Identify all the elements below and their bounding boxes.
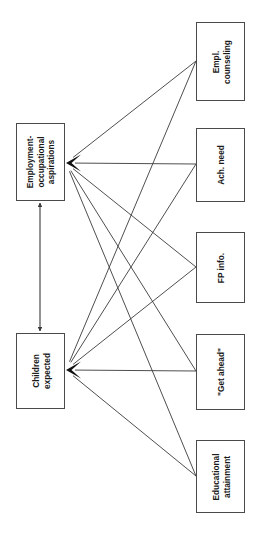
node-label-children-expected: Children expected <box>30 353 51 389</box>
edge-ach-need-to-aspirations <box>75 163 196 164</box>
edge-fp-info-to-aspirations <box>73 169 196 267</box>
node-label-ach-need: Ach. need <box>215 145 226 185</box>
edge-get-ahead-to-aspirations <box>71 171 196 371</box>
path-model-diagram: Empl. counselingAch. needFP info."Get ah… <box>0 0 259 542</box>
edge-lines <box>69 61 196 476</box>
edge-empl-counseling-to-aspirations <box>73 61 196 157</box>
node-label-employment-occupational-aspirations: Employment- occupational aspirations <box>25 136 57 189</box>
node-label-get-ahead: "Get ahead" <box>215 348 226 396</box>
node-label-educational-attainment: Educational attainment <box>210 453 231 500</box>
node-empl-counseling[interactable]: Empl. counseling <box>196 22 245 101</box>
node-ach-need[interactable]: Ach. need <box>196 128 245 202</box>
edge-get-ahead-to-children <box>75 370 196 371</box>
edge-fp-info-to-children <box>73 267 196 364</box>
edge-educational-attainment-to-aspirations <box>69 171 196 476</box>
edge-educational-attainment-to-children <box>73 376 196 476</box>
node-label-fp-info: FP info. <box>215 252 226 282</box>
node-get-ahead[interactable]: "Get ahead" <box>196 334 245 410</box>
node-fp-info[interactable]: FP info. <box>196 232 245 303</box>
node-children-expected[interactable]: Children expected <box>16 333 65 409</box>
arrow-heads <box>66 155 81 379</box>
edge-ach-need-to-children <box>71 164 196 362</box>
node-employment-occupational-aspirations[interactable]: Employment- occupational aspirations <box>16 123 65 201</box>
node-educational-attainment[interactable]: Educational attainment <box>196 440 245 513</box>
node-label-empl-counseling: Empl. counseling <box>210 40 231 84</box>
